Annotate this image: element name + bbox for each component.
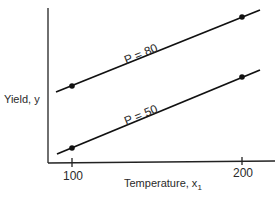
x-tick-label-100: 100 [63,170,83,182]
x-axis-label-text: Temperature, x [124,177,197,189]
data-point-p80-200 [239,14,245,20]
data-point-p80-100 [69,83,75,89]
data-point-p50-100 [69,145,75,151]
x-axis-label: Temperature, x1 [124,178,202,192]
x-tick-label-200: 200 [233,167,253,179]
y-axis-label: Yield, y [4,94,40,105]
x-axis [48,161,275,163]
x-axis-label-subscript: 1 [197,183,201,192]
data-point-p50-200 [239,74,245,80]
